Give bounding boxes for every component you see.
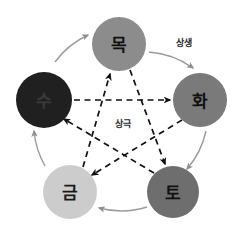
arc-geum-to-su	[34, 131, 45, 166]
element-node-geum[interactable]: 금	[43, 165, 97, 219]
element-node-hwa[interactable]: 화	[173, 73, 227, 127]
node-label-su: 수	[36, 91, 52, 111]
element-node-mok[interactable]: 목	[92, 17, 146, 71]
element-node-su[interactable]: 수	[16, 72, 72, 128]
arc-hwa-to-to	[187, 131, 206, 169]
node-label-hwa: 화	[192, 91, 208, 111]
arc-to-to-geum	[99, 207, 147, 211]
arc-su-to-mok	[55, 35, 88, 62]
dash-geum-to-mok	[83, 74, 110, 167]
node-label-geum: 금	[62, 183, 78, 203]
element-node-to[interactable]: 토	[147, 166, 199, 218]
dash-mok-to-to	[130, 70, 165, 164]
node-label-mok: 목	[111, 35, 127, 55]
wuxing-canvas: 목 화 토 금 수 상생 상극	[0, 0, 244, 240]
relation-label-sangsaeng: 상생	[176, 37, 192, 48]
wuxing-diagram: 목 화 토 금 수 상생 상극	[0, 0, 244, 240]
relation-label-sanggeuk: 상극	[115, 118, 132, 129]
node-label-to: 토	[165, 183, 181, 203]
arc-mok-to-hwa	[149, 52, 193, 68]
